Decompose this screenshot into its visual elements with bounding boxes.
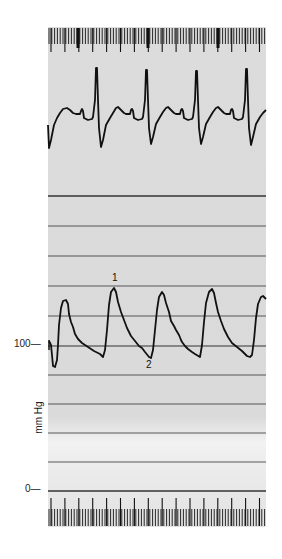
- recording-paper: [48, 27, 266, 527]
- y-tick-0: 0—: [25, 483, 41, 494]
- physiological-recording: [0, 0, 282, 559]
- annotation-2: 2: [146, 359, 152, 370]
- annotation-1: 1: [112, 272, 118, 283]
- y-tick-100: 100—: [14, 338, 41, 349]
- y-axis-unit-label: mm Hg: [33, 398, 44, 438]
